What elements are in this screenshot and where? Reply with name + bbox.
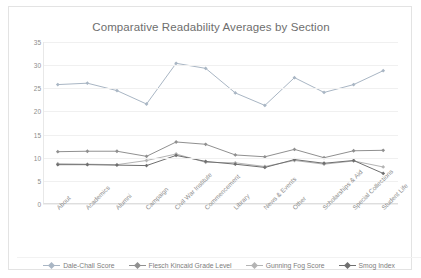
y-axis-tick: 5 <box>17 177 41 184</box>
legend-marker-icon <box>246 262 263 269</box>
x-axis-tick-labels: AboutAcademicsAlumniCampaignCivil War In… <box>43 206 398 254</box>
chart-title: Comparative Readability Averages by Sect… <box>9 21 413 33</box>
legend-marker-icon <box>43 262 60 269</box>
legend-label: Flesch Kincaid Grade Level <box>149 262 232 269</box>
y-axis-tick: 30 <box>17 62 41 69</box>
legend-marker-icon <box>129 262 146 269</box>
legend-marker-icon <box>339 262 356 269</box>
gridline <box>43 204 398 205</box>
legend-item[interactable]: Gunning Fog Score <box>246 262 325 269</box>
y-axis-tick: 25 <box>17 85 41 92</box>
legend-item[interactable]: Flesch Kincaid Grade Level <box>129 262 232 269</box>
y-axis-tick: 10 <box>17 154 41 161</box>
y-axis-tick: 0 <box>17 201 41 208</box>
legend-label: Smog Index <box>359 262 395 269</box>
legend-item[interactable]: Smog Index <box>339 262 395 269</box>
y-axis-tick: 15 <box>17 131 41 138</box>
legend-label: Gunning Fog Score <box>266 262 325 269</box>
y-axis-tick: 35 <box>17 39 41 46</box>
plot-axes <box>43 42 398 204</box>
legend-item[interactable]: Dale-Chall Score <box>43 262 114 269</box>
chart-container: Comparative Readability Averages by Sect… <box>8 6 412 270</box>
plot-area <box>43 42 398 204</box>
legend-label: Dale-Chall Score <box>63 262 114 269</box>
y-axis-tick: 20 <box>17 108 41 115</box>
y-axis-tick-labels: 05101520253035 <box>17 42 41 204</box>
chart-legend: Dale-Chall ScoreFlesch Kincaid Grade Lev… <box>17 257 421 269</box>
